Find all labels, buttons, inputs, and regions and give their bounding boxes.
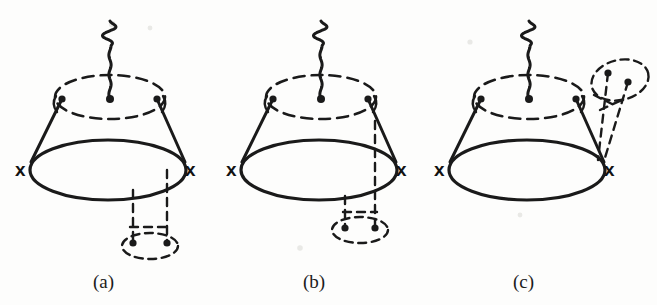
panel-a: xx — [15, 21, 196, 259]
panel-a-cross-label-1: x — [185, 159, 196, 180]
panel-b: xx — [226, 21, 407, 243]
panel-a-vertex-dot-1 — [153, 95, 160, 102]
panel-b-quark-dot-0 — [341, 224, 348, 231]
panel-a-quark-dot-0 — [129, 239, 136, 246]
panel-a-quark-loop-ellipse — [122, 233, 178, 259]
panel-a-quark-dot-1 — [163, 239, 170, 246]
panel-a-gluon-endpoint-dot — [106, 95, 114, 103]
figure-root: xxxxxx(a)(b)(c) — [0, 0, 657, 305]
panel-b-cross-label-1: x — [396, 159, 407, 180]
panel-b-quark-dot-1 — [371, 224, 378, 231]
panel-c-side-quark-leg-0 — [598, 73, 608, 160]
scan-speck-1 — [148, 26, 153, 31]
panel-c-side-quark-dot-0 — [604, 69, 611, 76]
panel-c-gluon-endpoint-dot — [525, 95, 533, 103]
panel-b-quark-loop-ellipse — [332, 217, 388, 243]
panel-b-wilson-loop-ellipse — [241, 140, 397, 200]
panel-c-vertex-dot-0 — [477, 95, 484, 102]
panel-b-cross-label-0: x — [226, 159, 237, 180]
panel-b-gluon-endpoint-dot — [317, 95, 325, 103]
feynman-diagram-canvas: xxxxxx(a)(b)(c) — [0, 0, 657, 305]
panel-b-gluon-wavy-line — [314, 21, 327, 99]
panel-b-vertex-dot-1 — [364, 95, 371, 102]
panel-caption-2: (b) — [303, 271, 325, 293]
panel-c-side-quark-loop-ellipse — [587, 54, 653, 107]
panel-c-cross-label-1: x — [604, 159, 615, 180]
panel-c-gluon-wavy-line — [522, 21, 535, 99]
panel-a-vertex-dot-0 — [58, 95, 65, 102]
panel-c-vertex-dot-1 — [572, 95, 579, 102]
panel-caption-3: (c) — [513, 271, 534, 293]
panel-c-side-quark-leg-1 — [604, 82, 628, 161]
scan-speck-4 — [518, 213, 523, 218]
scan-speck-2 — [467, 39, 472, 44]
panel-a-wilson-loop-ellipse — [30, 140, 186, 200]
panel-c: xx — [434, 21, 653, 200]
panel-caption-1: (a) — [93, 271, 114, 293]
panel-a-cross-label-0: x — [15, 159, 26, 180]
panel-c-wilson-loop-ellipse — [449, 140, 605, 200]
panel-a-gluon-wavy-line — [103, 21, 116, 99]
panel-c-side-quark-dot-1 — [624, 78, 631, 85]
panel-c-cross-label-0: x — [434, 159, 445, 180]
panel-b-vertex-dot-0 — [269, 95, 276, 102]
scan-speck-3 — [297, 245, 303, 251]
